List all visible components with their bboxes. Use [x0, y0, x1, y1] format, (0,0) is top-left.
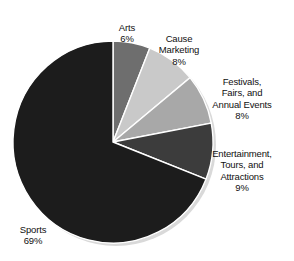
slice-label-festivals-percent: 8% — [198, 110, 286, 122]
slice-label-sports-text: Sports — [20, 224, 47, 235]
slice-label-entertainment: Entertainment, Tours, and Attractions 9% — [196, 136, 288, 205]
slice-label-entertainment-percent: 9% — [196, 182, 288, 194]
slice-label-sports: Sports 69% — [6, 212, 60, 258]
slice-label-festivals: Festivals, Fairs, and Annual Events 8% — [198, 64, 286, 133]
slice-label-sports-percent: 69% — [6, 235, 60, 247]
slice-label-arts: Arts 6% — [104, 10, 150, 56]
slice-label-arts-percent: 6% — [104, 33, 150, 45]
slice-label-entertainment-text: Entertainment, Tours, and Attractions — [212, 148, 272, 182]
slice-label-festivals-text: Festivals, Fairs, and Annual Events — [212, 76, 271, 110]
slice-label-arts-text: Arts — [119, 22, 135, 33]
pie-chart-figure: Arts 6% Cause Marketing 8% Festivals, Fa… — [0, 0, 294, 261]
slice-label-cause-marketing-text: Cause Marketing — [159, 33, 199, 56]
